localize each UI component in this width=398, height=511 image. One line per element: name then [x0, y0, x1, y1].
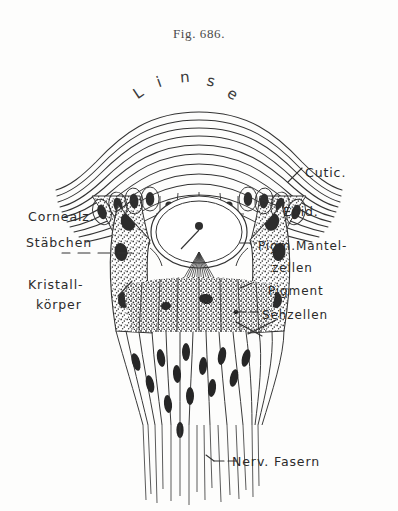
label-sehzellen: Sehzellen: [262, 308, 328, 322]
label-staebchen: Stäbchen: [26, 235, 92, 250]
label-pigm-mantel: Pigm.Mantel-: [258, 239, 347, 253]
label-cutic: Cutic.: [305, 165, 346, 180]
retinula-sensory-cells: [116, 330, 284, 425]
eye-cross-section-diagram: [0, 0, 398, 511]
label-zellen: zellen: [272, 261, 313, 275]
label-epid: Epid.: [283, 204, 319, 219]
label-kristall: Kristall-: [28, 277, 83, 292]
label-nerv-fasern: Nerv. Fasern: [232, 454, 320, 469]
pigment-layer: [124, 277, 276, 332]
figure-root: Fig. 686.: [0, 0, 398, 511]
label-pigment: Pigment: [268, 284, 324, 298]
label-koerper: körper: [36, 297, 82, 312]
label-cornealz: Cornealz.: [28, 209, 95, 224]
leader-nerv-fasern-tick: [206, 455, 214, 461]
